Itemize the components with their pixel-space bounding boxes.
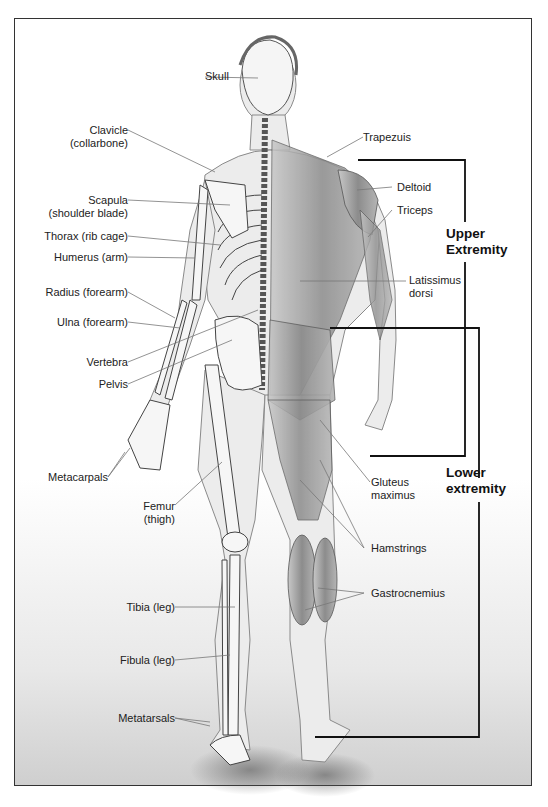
label-gluteus-maximus: Gluteus maximus [371, 476, 415, 502]
label-vertebra: Vertebra [20, 356, 128, 369]
region-label-lower-extremity: Lower extremity [446, 465, 506, 497]
label-latissimus-dorsi: Latissimus dorsi [409, 274, 461, 300]
label-metacarpals: Metacarpals [20, 471, 108, 484]
label-hamstrings: Hamstrings [371, 542, 427, 555]
label-humerus: Humerus (arm) [20, 251, 128, 264]
label-thorax: Thorax (rib cage) [20, 230, 128, 243]
region-label-upper-extremity: Upper Extremity [446, 226, 508, 258]
label-triceps: Triceps [397, 204, 433, 217]
label-tibia: Tibia (leg) [90, 601, 175, 614]
label-deltoid: Deltoid [397, 181, 431, 194]
label-clavicle: Clavicle (collarbone) [50, 124, 128, 150]
label-scapula: Scapula (shoulder blade) [30, 194, 128, 220]
label-metatarsals: Metatarsals [90, 712, 175, 725]
label-femur: Femur (thigh) [120, 500, 175, 526]
label-gastrocnemius: Gastrocnemius [371, 587, 445, 600]
label-skull: Skull [205, 70, 229, 83]
label-trapezuis: Trapezuis [363, 131, 411, 144]
anatomy-illustration [0, 0, 548, 807]
label-radius: Radius (forearm) [20, 286, 128, 299]
label-fibula: Fibula (leg) [90, 654, 175, 667]
label-ulna: Ulna (forearm) [20, 316, 128, 329]
label-pelvis: Pelvis [20, 378, 128, 391]
